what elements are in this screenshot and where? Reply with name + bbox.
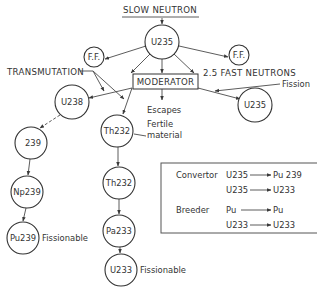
title-text: SLOW NEUTRON (123, 5, 197, 15)
node-pa233: Pa233 (103, 215, 135, 247)
label-fast-neutrons: 2.5 FAST NEUTRONS (203, 68, 296, 78)
arrow-u235-to-moderator-left (131, 54, 150, 73)
transmutation-arrow-th232 (93, 71, 124, 99)
label-u233-fissionable: Fissionable (140, 265, 186, 275)
label-fission: Fission (282, 79, 310, 89)
legend-convertor-row1-from: U235 (226, 170, 248, 180)
legend-breeder-label: Breeder (176, 205, 210, 215)
svg-text:U235: U235 (151, 37, 173, 47)
legend-convertor-row2-to: U233 (273, 185, 295, 195)
svg-text:239: 239 (25, 138, 41, 148)
legend-breeder-row2-from: U233 (226, 220, 248, 230)
fertile-leader (134, 134, 146, 136)
label-pu239-fissionable: Fissionable (42, 233, 88, 243)
node-u238: U238 (55, 85, 89, 119)
legend-convertor-row2-from: U235 (226, 185, 248, 195)
node-pu239: Pu239 (7, 222, 39, 254)
arrow-moderator-to-u235-right (198, 88, 240, 99)
arrow-u235-to-ff-right (179, 46, 228, 57)
label-escapes: Escapes (147, 105, 181, 115)
node-np239: Np239 (11, 176, 43, 208)
label-fertile: Fertile (147, 119, 173, 129)
legend-breeder-row1-from: Pu (226, 205, 236, 215)
legend-box: Convertor U235 Pu 239 U235 U233 Breeder … (161, 163, 317, 233)
node-u235-right: U235 (238, 88, 272, 122)
arrow-moderator-to-u238 (89, 88, 132, 98)
node-ff-right: F.F. (229, 45, 249, 65)
legend-breeder-row1-to: Pu (273, 205, 283, 215)
svg-text:F.F.: F.F. (233, 50, 245, 60)
svg-text:MODERATOR: MODERATOR (137, 77, 195, 87)
svg-text:Th232: Th232 (105, 178, 132, 188)
svg-text:F.F.: F.F. (88, 52, 100, 62)
node-th232-second: Th232 (103, 167, 135, 199)
node-ff-left: F.F. (84, 47, 104, 67)
svg-text:Th232: Th232 (103, 126, 130, 136)
legend-convertor-label: Convertor (176, 170, 218, 180)
arrow-239-to-np239 (28, 159, 30, 175)
arrow-u238-to-239 (40, 115, 60, 128)
svg-text:Pu239: Pu239 (10, 233, 36, 243)
svg-text:Np239: Np239 (13, 187, 41, 197)
svg-text:Pa233: Pa233 (106, 226, 132, 236)
arrow-moderator-to-th232 (123, 88, 132, 114)
legend-breeder-row2-to: U233 (273, 220, 295, 230)
label-transmutation: TRANSMUTATION (6, 67, 84, 77)
node-u235-top: U235 (145, 25, 179, 59)
svg-text:U233: U233 (110, 265, 132, 275)
label-material: material (147, 130, 182, 140)
svg-text:U238: U238 (61, 97, 83, 107)
title-slow-neutron: SLOW NEUTRON (122, 5, 199, 17)
legend-convertor-row1-to: Pu 239 (273, 170, 302, 180)
node-239: 239 (15, 127, 47, 159)
arrow-u235-to-ff-left (105, 46, 146, 59)
arrow-np239-to-pu239 (23, 208, 26, 221)
node-u233: U233 (105, 254, 137, 286)
node-moderator: MODERATOR (133, 74, 198, 89)
arrow-u235-to-moderator-right (174, 54, 194, 73)
svg-text:U235: U235 (244, 100, 266, 110)
neutron-diagram: SLOW NEUTRON U235 F.F (0, 0, 317, 287)
transmutation-arrow-u238 (93, 71, 104, 91)
node-th232-fertile: Th232 (101, 115, 133, 147)
